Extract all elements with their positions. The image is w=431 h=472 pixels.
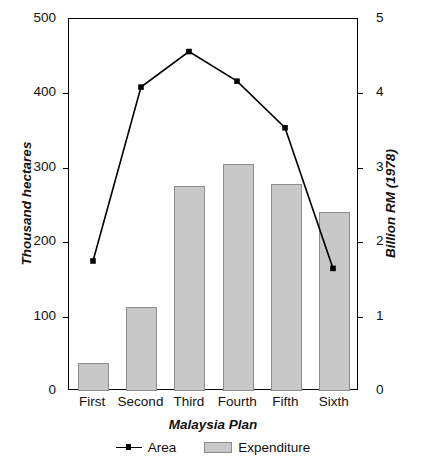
line-marker (330, 266, 336, 272)
y-tick-label-left: 400 (20, 85, 56, 99)
line-series-area (69, 19, 357, 389)
y-tick-mark-right (357, 242, 363, 243)
bar-swatch-icon (204, 442, 232, 453)
figure-caption (8, 464, 428, 472)
x-axis-title: Malaysia Plan (68, 417, 358, 432)
line-marker (90, 258, 96, 264)
plot-area (68, 18, 358, 390)
x-tick-label: Second (118, 394, 164, 409)
y-axis-left-title: Thousand hectares (19, 134, 34, 274)
line-path (93, 52, 333, 269)
y-tick-label-right: 5 (376, 11, 384, 25)
y-tick-label-left: 500 (20, 11, 56, 25)
y-tick-mark-left (63, 317, 69, 318)
legend-label-area: Area (148, 440, 177, 455)
x-tick-label: First (79, 394, 105, 409)
legend-item-area: Area (116, 440, 177, 455)
y-tick-mark-left (63, 93, 69, 94)
x-tick-label: Fifth (272, 394, 298, 409)
line-marker (138, 84, 144, 90)
y-tick-label-left: 0 (20, 383, 56, 397)
y-tick-mark-right (357, 168, 363, 169)
line-marker (282, 125, 288, 131)
y-tick-label-left: 100 (20, 309, 56, 323)
x-axis-category-labels: FirstSecondThirdFourthFifthSixth (68, 394, 358, 414)
x-tick-label: Third (173, 394, 204, 409)
line-marker (234, 78, 240, 84)
y-tick-label-right: 4 (376, 85, 384, 99)
legend-item-expenditure: Expenditure (204, 440, 310, 455)
chart-legend: Area Expenditure (68, 437, 358, 457)
line-marker-icon (116, 442, 142, 452)
y-tick-label-right: 1 (376, 309, 384, 323)
y-tick-mark-left (63, 168, 69, 169)
y-tick-mark-left (63, 242, 69, 243)
x-tick-label: Sixth (319, 394, 349, 409)
y-tick-label-right: 0 (376, 383, 384, 397)
legend-label-expenditure: Expenditure (238, 440, 310, 455)
line-marker (186, 49, 192, 55)
y-tick-mark-right (357, 93, 363, 94)
y-tick-mark-right (357, 317, 363, 318)
y-axis-right-title: Billion RM (1978) (383, 129, 398, 279)
chart-figure: 0100200300400500 012345 Thousand hectare… (0, 0, 431, 472)
x-tick-label: Fourth (218, 394, 257, 409)
